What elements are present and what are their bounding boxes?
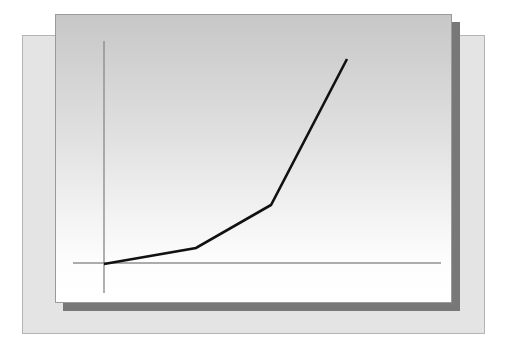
line-chart [56,15,452,303]
data-series-line [104,59,347,264]
chart-panel [55,14,452,303]
illustration-canvas [0,0,508,357]
